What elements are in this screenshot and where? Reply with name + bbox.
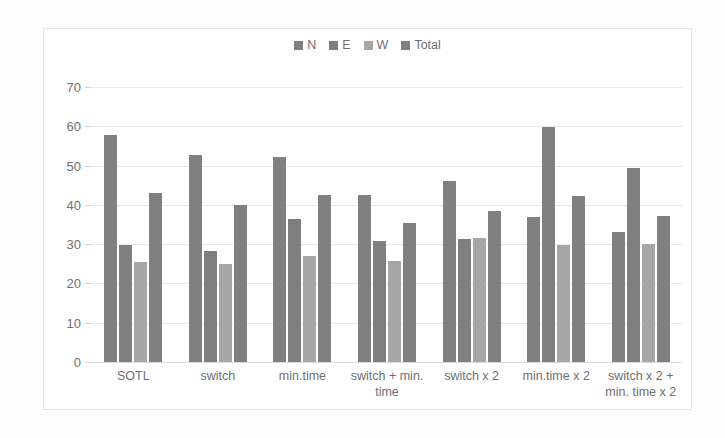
bar[interactable] <box>219 264 232 362</box>
bar[interactable] <box>273 157 286 362</box>
x-axis-tick-label: min.time <box>260 369 345 400</box>
y-axis-tick-label: 70 <box>67 80 81 95</box>
bar[interactable] <box>104 135 117 362</box>
y-axis-tick-label: 60 <box>67 119 81 134</box>
legend-entry[interactable]: E <box>329 39 350 52</box>
bar[interactable] <box>204 251 217 362</box>
legend-label: E <box>342 39 350 52</box>
x-axis-tick-label: switch + min. time <box>345 369 430 400</box>
y-axis-tick-label: 10 <box>67 315 81 330</box>
bar[interactable] <box>373 241 386 362</box>
bar[interactable] <box>149 193 162 362</box>
bar[interactable] <box>612 232 625 362</box>
y-axis-tick-label: 0 <box>74 355 81 370</box>
legend-label: Total <box>414 39 440 52</box>
legend-entry[interactable]: Total <box>401 39 440 52</box>
bar[interactable] <box>527 217 540 362</box>
bar[interactable] <box>288 219 301 362</box>
legend-swatch-icon <box>329 41 338 50</box>
legend-swatch-icon <box>401 41 410 50</box>
gridline <box>91 362 683 363</box>
legend-swatch-icon <box>294 41 303 50</box>
bar[interactable] <box>318 195 331 362</box>
bar-group <box>260 87 345 362</box>
bars-layer <box>91 87 683 362</box>
plot-area: 010203040506070 <box>91 87 683 362</box>
bar[interactable] <box>189 155 202 362</box>
x-axis-tick-label: min.time x 2 <box>514 369 599 400</box>
bar-group <box>345 87 430 362</box>
y-axis-tick-label: 40 <box>67 197 81 212</box>
bar-group <box>598 87 683 362</box>
x-axis-tick-label: switch x 2 <box>429 369 514 400</box>
y-axis-tick-label: 30 <box>67 237 81 252</box>
bar[interactable] <box>657 216 670 362</box>
bar[interactable] <box>473 238 486 362</box>
bar-group <box>514 87 599 362</box>
bar[interactable] <box>557 245 570 362</box>
legend-label: W <box>377 39 389 52</box>
bar[interactable] <box>642 244 655 362</box>
bar[interactable] <box>542 127 555 362</box>
x-axis-tick-label: switch x 2 + min. time x 2 <box>598 369 683 400</box>
bar[interactable] <box>134 262 147 362</box>
bar[interactable] <box>303 256 316 362</box>
legend-swatch-icon <box>364 41 373 50</box>
chart-container: NEWTotal 010203040506070 SOTLswitchmin.t… <box>43 28 692 410</box>
bar[interactable] <box>388 261 401 362</box>
chart-legend: NEWTotal <box>44 39 691 52</box>
bar[interactable] <box>358 195 371 362</box>
bar[interactable] <box>627 168 640 362</box>
legend-entry[interactable]: W <box>364 39 389 52</box>
legend-label: N <box>307 39 316 52</box>
y-axis-tick-label: 20 <box>67 276 81 291</box>
bar[interactable] <box>443 181 456 362</box>
bar-group <box>176 87 261 362</box>
bar[interactable] <box>488 211 501 362</box>
x-axis-tick-label: SOTL <box>91 369 176 400</box>
bar[interactable] <box>234 205 247 362</box>
bar[interactable] <box>119 245 132 362</box>
bar[interactable] <box>403 223 416 362</box>
y-axis-tick-label: 50 <box>67 158 81 173</box>
bar[interactable] <box>458 239 471 362</box>
legend-entry[interactable]: N <box>294 39 316 52</box>
x-axis-labels: SOTLswitchmin.timeswitch + min. timeswit… <box>91 369 683 400</box>
y-axis-tick-mark <box>85 362 91 363</box>
x-axis-tick-label: switch <box>176 369 261 400</box>
bar-group <box>429 87 514 362</box>
bar[interactable] <box>572 196 585 362</box>
bar-group <box>91 87 176 362</box>
